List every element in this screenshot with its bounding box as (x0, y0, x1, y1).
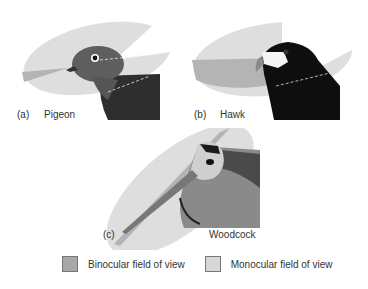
panel-marker-a: (a) (17, 109, 29, 120)
panel-pigeon: (a) Pigeon (0, 0, 184, 130)
binocular-swatch (62, 256, 78, 272)
panel-title-pigeon: Pigeon (44, 109, 75, 120)
panel-hawk: (b) Hawk (184, 0, 368, 130)
legend-item-monocular: Monocular field of view (205, 256, 333, 272)
legend-label-binocular: Binocular field of view (88, 259, 185, 270)
legend-label-monocular: Monocular field of view (231, 259, 333, 270)
panel-title-woodcock: Woodcock (209, 229, 256, 240)
woodcock-eye (206, 159, 214, 165)
panel-woodcock: (c) Woodcock (80, 128, 280, 250)
hawk-field-of-view-diagram (184, 0, 368, 130)
legend: Binocular field of view Monocular field … (62, 256, 352, 272)
panel-title-hawk: Hawk (220, 109, 245, 120)
panel-marker-c: (c) (103, 229, 115, 240)
hawk-eye (284, 50, 289, 55)
monocular-swatch (205, 256, 221, 272)
panel-marker-b: (b) (194, 109, 206, 120)
legend-item-binocular: Binocular field of view (62, 256, 185, 272)
pigeon-head (72, 46, 124, 82)
